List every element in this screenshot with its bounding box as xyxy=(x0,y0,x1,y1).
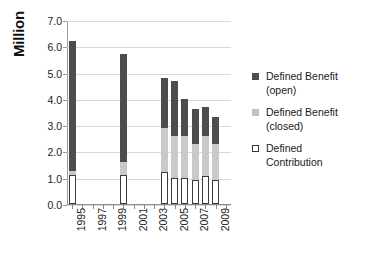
bar-segment-defined-benefit-closed xyxy=(161,128,168,173)
x-axis-tick-label: 2009 xyxy=(220,208,231,254)
y-axis-tick-label: 4.0 xyxy=(34,95,62,106)
x-axis-tick xyxy=(72,205,73,209)
legend-label: Defined Benefit xyxy=(266,70,338,82)
bar-segment-defined-benefit-closed xyxy=(181,136,188,178)
legend-entry: DefinedContribution xyxy=(252,142,366,169)
bar-segment-defined-benefit-closed xyxy=(69,171,76,175)
bar-segment-defined-contribution xyxy=(69,175,76,204)
bar-segment-defined-contribution xyxy=(212,180,219,204)
bar xyxy=(120,20,127,204)
y-axis-tick-label: 2.0 xyxy=(34,147,62,158)
x-axis-tick-labels: 19951997199920012003200520072009 xyxy=(67,210,231,257)
bar xyxy=(181,20,188,204)
bar-segment-defined-benefit-open xyxy=(192,109,199,143)
y-axis-tick-labels: 7.06.05.04.03.02.01.00.0 xyxy=(34,0,62,257)
y-axis-tick xyxy=(63,179,67,180)
bar-segment-defined-benefit-open xyxy=(161,78,168,128)
x-axis-tick xyxy=(93,205,94,209)
bar-segment-defined-benefit-closed xyxy=(202,136,209,177)
y-axis-tick-label: 1.0 xyxy=(34,173,62,184)
chart-legend: Defined Benefit(open)Defined Benefit(clo… xyxy=(252,70,366,178)
y-axis-tick xyxy=(63,74,67,75)
bar-segment-defined-contribution xyxy=(192,180,199,204)
plot-area xyxy=(67,21,231,205)
legend-label-continued: Contribution xyxy=(266,156,366,170)
legend-label: Defined xyxy=(266,142,302,154)
legend-label-continued: (open) xyxy=(266,84,366,98)
x-axis-tick-label: 2007 xyxy=(199,208,210,254)
x-axis-tick-label: 2005 xyxy=(179,208,190,254)
legend-entry: Defined Benefit(open) xyxy=(252,70,366,97)
bar xyxy=(161,20,168,204)
y-axis-tick-label: 6.0 xyxy=(34,42,62,53)
y-axis-tick xyxy=(63,126,67,127)
bar-segment-defined-benefit-open xyxy=(120,54,127,162)
bar-segment-defined-contribution xyxy=(181,178,188,204)
x-axis-tick-label: 2003 xyxy=(158,208,169,254)
legend-swatch-icon xyxy=(252,73,259,80)
legend-label-continued: (closed) xyxy=(266,120,366,134)
bar-segment-defined-benefit-closed xyxy=(212,144,219,181)
y-axis-tick-label: 0.0 xyxy=(34,200,62,211)
x-axis-tick xyxy=(216,205,217,209)
stacked-bar-chart: Million 7.06.05.04.03.02.01.00.0 1995199… xyxy=(0,0,366,257)
bar xyxy=(192,20,199,204)
legend-entry: Defined Benefit(closed) xyxy=(252,106,366,133)
bar-segment-defined-contribution xyxy=(171,178,178,204)
x-axis-tick xyxy=(195,205,196,209)
y-axis-tick-label: 3.0 xyxy=(34,121,62,132)
x-axis-tick-label: 1997 xyxy=(97,208,108,254)
x-axis-tick xyxy=(175,205,176,209)
bar-segment-defined-benefit-open xyxy=(212,117,219,143)
y-axis-tick-label: 5.0 xyxy=(34,68,62,79)
y-axis-tick-label: 7.0 xyxy=(34,16,62,27)
legend-swatch-icon xyxy=(252,109,259,116)
bar-segment-defined-benefit-closed xyxy=(171,136,178,178)
bar-segment-defined-contribution xyxy=(202,176,209,204)
y-axis-tick xyxy=(63,21,67,22)
bar xyxy=(202,20,209,204)
bar xyxy=(212,20,219,204)
bar-segment-defined-benefit-open xyxy=(181,99,188,136)
y-axis-tick xyxy=(63,47,67,48)
bar xyxy=(69,20,76,204)
bar xyxy=(171,20,178,204)
y-axis-tick xyxy=(63,100,67,101)
x-axis-tick-label: 1995 xyxy=(76,208,87,254)
legend-swatch-icon xyxy=(252,145,259,152)
bar-segment-defined-contribution xyxy=(161,172,168,204)
bar-segment-defined-benefit-open xyxy=(69,41,76,171)
bar-segment-defined-contribution xyxy=(120,175,127,204)
legend-label: Defined Benefit xyxy=(266,106,338,118)
bar-segment-defined-benefit-closed xyxy=(192,144,199,181)
y-axis-title: Million xyxy=(8,0,30,84)
x-axis-tick-label: 2001 xyxy=(138,208,149,254)
bar-segment-defined-benefit-closed xyxy=(120,162,127,175)
x-axis-tick xyxy=(113,205,114,209)
x-axis-tick xyxy=(154,205,155,209)
y-axis-tick xyxy=(63,152,67,153)
bar-segment-defined-benefit-open xyxy=(202,107,209,136)
x-axis-tick xyxy=(134,205,135,209)
x-axis-tick-label: 1999 xyxy=(117,208,128,254)
bar-segment-defined-benefit-open xyxy=(171,81,178,135)
